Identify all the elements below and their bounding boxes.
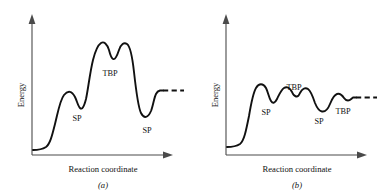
panel-a-caption: (a) (98, 180, 108, 190)
panel-b-label-sp-1: SP (261, 108, 271, 117)
panel-a-plot: SP TBP SP Energy Reaction coordinate (a) (0, 0, 194, 194)
panel-a-y-axis-label: Energy (16, 82, 26, 107)
panel-a-y-axis (29, 14, 36, 155)
panel-a-x-axis-label: Reaction coordinate (69, 164, 138, 174)
panel-b-label-sp-2: SP (314, 117, 324, 126)
panel-b-y-axis (223, 14, 230, 155)
panel-a-x-axis (32, 152, 173, 159)
panel-b-label-tbp-2: TBP (335, 107, 351, 116)
panel-a-label-sp-2: SP (142, 126, 152, 135)
panel-b-caption: (b) (292, 180, 302, 190)
panel-a-label-sp-1: SP (72, 114, 82, 123)
panel-a-label-tbp-1: TBP (102, 69, 118, 78)
panel-b-label-tbp-1: TBP (286, 83, 302, 92)
panel-b-x-axis (226, 152, 367, 159)
panel-b-plot: SP TBP SP TBP Energy Reaction coordinate… (194, 0, 388, 194)
panel-b-y-axis-label: Energy (210, 82, 220, 107)
energy-profile-figure: SP TBP SP Energy Reaction coordinate (a) (0, 0, 388, 194)
panel-b-x-axis-label: Reaction coordinate (263, 164, 332, 174)
panel-a: SP TBP SP Energy Reaction coordinate (a) (0, 0, 194, 194)
panel-b: SP TBP SP TBP Energy Reaction coordinate… (194, 0, 388, 194)
